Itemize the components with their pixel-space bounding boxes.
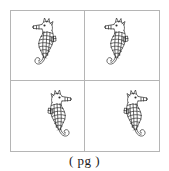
figure-caption: ( pg ) (0, 153, 169, 169)
seahorse-illustration (99, 16, 129, 72)
grid-cell-top-left (11, 11, 85, 81)
grid-cell-bottom-right (85, 81, 159, 151)
figure-root: ( pg ) (0, 0, 169, 171)
grid-cell-bottom-left (11, 81, 85, 151)
seahorse-illustration (47, 88, 77, 144)
seahorse-illustration (27, 16, 57, 72)
grid-cell-top-right (85, 11, 159, 81)
seahorse-illustration (123, 88, 153, 144)
seahorse-grid-panel (10, 10, 160, 152)
